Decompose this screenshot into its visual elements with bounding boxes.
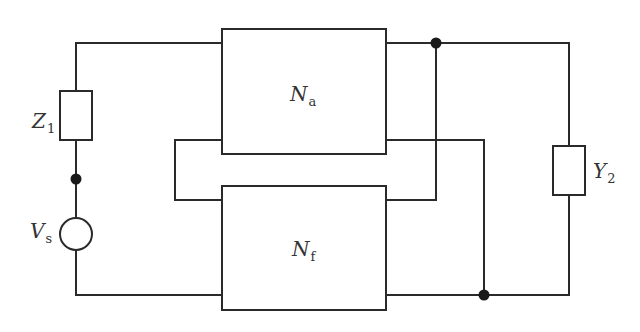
- wire-feedback-top: [386, 43, 436, 200]
- junction-dot-top: [431, 38, 442, 49]
- wire-bottom-right: [386, 195, 569, 295]
- impedance-z1: [60, 91, 92, 140]
- circuit-diagram: Na Nf Z1 Vs Y2: [0, 0, 640, 332]
- wire-top-left: [76, 43, 222, 91]
- wire-inner-left-loop: [175, 140, 222, 200]
- label-vs: Vs: [30, 219, 52, 246]
- junction-dot-left: [71, 174, 82, 185]
- junction-dot-bottom: [479, 290, 490, 301]
- label-z1: Z1: [31, 109, 55, 136]
- wire-bottom-left: [76, 250, 222, 295]
- wire-top-right: [386, 43, 569, 146]
- admittance-y2: [553, 146, 585, 195]
- voltage-source-vs: [60, 218, 92, 250]
- label-y2: Y2: [593, 159, 615, 186]
